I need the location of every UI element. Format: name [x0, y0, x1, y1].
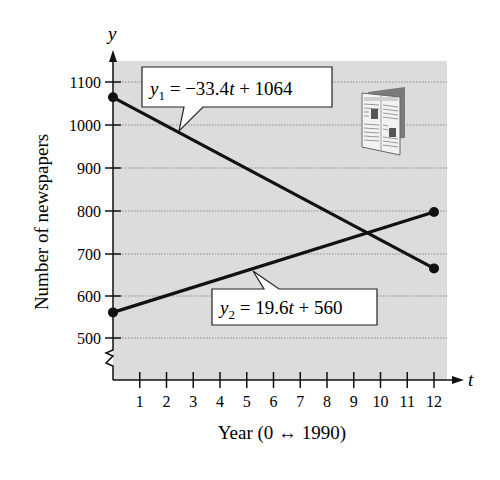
y-tick-label: 900 [77, 160, 101, 177]
y-axis-arrow-icon [109, 50, 117, 62]
x-tick-label: 3 [189, 393, 197, 410]
y-tick-label: 700 [77, 246, 101, 263]
x-tick-label: 1 [136, 393, 144, 410]
series-y1-start-point [108, 92, 118, 102]
x-tick-label: 10 [373, 393, 389, 410]
y-axis [106, 58, 113, 380]
x-tick-label: 7 [296, 393, 304, 410]
y-axis-title: Number of newspapers [31, 134, 52, 310]
x-axis-variable: t [468, 369, 474, 390]
x-tick-label: 11 [400, 393, 415, 410]
y-tick-label: 500 [77, 330, 101, 347]
x-tick-label: 2 [163, 393, 171, 410]
x-tick-label: 4 [216, 393, 224, 410]
newspaper-icon [362, 87, 405, 155]
x-tick-labels: 1 2 3 4 5 6 7 8 9 10 11 12 [136, 393, 442, 410]
x-axis-title: Year (0 ↔ 1990) [218, 422, 346, 444]
x-tick-label: 6 [270, 393, 278, 410]
series-y1-end-point [429, 263, 439, 273]
x-tick-label: 9 [350, 393, 358, 410]
y-tick-label: 1000 [69, 117, 101, 134]
x-tick-label: 5 [243, 393, 251, 410]
series-y2-end-point [429, 207, 439, 217]
x-tick-label: 8 [323, 393, 331, 410]
y-axis-variable: y [106, 23, 117, 44]
x-tick-label: 12 [426, 393, 442, 410]
y-tick-label: 1100 [70, 74, 101, 91]
y-tick-labels: 1100 1000 900 800 700 600 500 [69, 74, 101, 347]
y-tick-label: 800 [77, 203, 101, 220]
chart: y 1100 1000 900 800 700 600 500 t 1 [0, 0, 500, 480]
x-axis-arrow-icon [452, 376, 464, 384]
series-y2-start-point [108, 307, 118, 317]
y-tick-label: 600 [77, 288, 101, 305]
